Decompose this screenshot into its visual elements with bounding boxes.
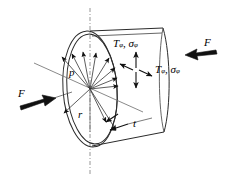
thickness-symbol: t (133, 117, 136, 129)
force-right-label: F (204, 32, 211, 50)
force-right-symbol: F (204, 36, 211, 48)
cylinder-bottom-edge (92, 132, 164, 146)
stress-label-right: Tφ, σφ (155, 59, 180, 77)
radius-label: r (78, 104, 82, 122)
vessel-illustration (0, 0, 225, 182)
stress-label-upper: Tφ, σφ (113, 33, 138, 51)
radius-symbol: r (78, 108, 82, 120)
thick-arrow-left-icon (185, 49, 217, 60)
thickness-label: t (133, 113, 136, 131)
leader-line-icon (106, 114, 152, 130)
stress-right-sigma-subscript: φ (176, 67, 180, 75)
pressure-label: p (69, 62, 75, 80)
pressure-symbol: p (69, 66, 75, 78)
force-left-symbol: F (18, 87, 25, 99)
biaxial-stress-cross-icon (120, 52, 152, 88)
cylinder-top-edge (90, 28, 163, 31)
cylinder-right-arc (163, 28, 169, 132)
cylinder-right-inner-arc (159, 28, 164, 132)
force-left-label: F (18, 83, 25, 101)
pressure-vessel-diagram: p r t F F Tφ, σφ Tφ, σφ (0, 0, 225, 182)
stress-upper-sigma-subscript: φ (134, 41, 138, 49)
